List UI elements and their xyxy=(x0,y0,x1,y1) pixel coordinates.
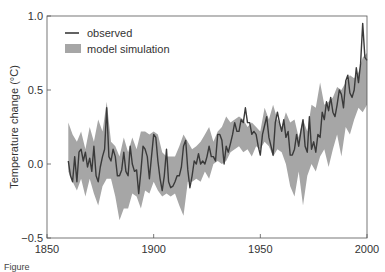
legend-model-label: model simulation xyxy=(87,43,170,55)
y-tick-label: 0.5 xyxy=(28,84,43,96)
y-tick-label: 1.0 xyxy=(28,10,43,22)
y-axis: 1.00.50.0−0.5 xyxy=(21,10,51,244)
figure-caption: Figure xyxy=(4,262,30,272)
x-tick-label: 2000 xyxy=(355,243,379,255)
legend: observed model simulation xyxy=(65,27,170,55)
x-tick-label: 1900 xyxy=(141,243,165,255)
y-tick-label: 0.0 xyxy=(28,158,43,170)
x-axis: 1850190019502000 xyxy=(35,234,379,255)
y-axis-title: Temperature change (°C) xyxy=(8,65,20,189)
x-tick-label: 1850 xyxy=(35,243,59,255)
legend-observed-label: observed xyxy=(87,27,132,39)
legend-model-swatch xyxy=(65,44,81,53)
x-tick-label: 1950 xyxy=(248,243,272,255)
